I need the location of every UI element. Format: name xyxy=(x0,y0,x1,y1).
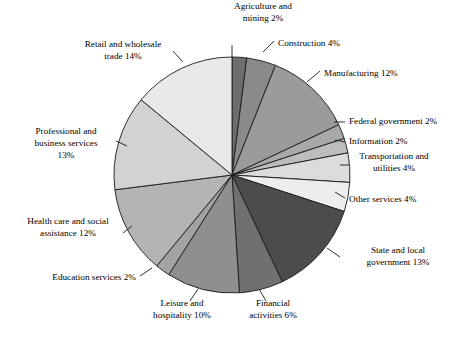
pie-slice-label: Education services 2% xyxy=(52,272,136,282)
pie-slice-label-line: Education services 2% xyxy=(52,272,136,282)
pie-slice-label-line: Retail and wholesale xyxy=(85,39,162,49)
pie-slice-label: Information 2% xyxy=(349,136,408,146)
pie-slice-label-line: Leisure and xyxy=(160,298,204,308)
pie-slice-label: Leisure andhospitality 10% xyxy=(153,298,211,320)
pie-slice-label-line: Health care and social xyxy=(27,216,109,226)
pie-slice-label-line: Professional and xyxy=(36,126,97,136)
pie-slice-label: Manufacturing 12% xyxy=(324,68,398,78)
pie-slice-label-line: utilities 4% xyxy=(373,163,415,173)
pie-slice-label: Retail and wholesaletrade 14% xyxy=(85,39,162,61)
pie-slice-label-line: Other services 4% xyxy=(349,194,417,204)
leader-line xyxy=(307,71,320,82)
pie-slice-label: Agriculture andmining 2% xyxy=(234,1,292,23)
pie-slice-label: State and localgovernment 13% xyxy=(366,245,429,267)
pie-slice-label: Financialactivities 6% xyxy=(249,298,297,320)
pie-slice-label-line: Financial xyxy=(256,298,291,308)
pie-slice-label-line: hospitality 10% xyxy=(153,310,211,320)
pie-slice-label-line: activities 6% xyxy=(249,310,297,320)
pie-slices-group xyxy=(114,57,350,293)
pie-slice-label: Federal government 2% xyxy=(349,116,438,126)
pie-slice-label-line: business services xyxy=(34,138,97,148)
pie-chart-figure: Agriculture andmining 2%Construction 4%M… xyxy=(0,0,469,339)
pie-slice-label: Transportation andutilities 4% xyxy=(359,151,429,173)
pie-slice-label-line: Construction 4% xyxy=(278,38,340,48)
pie-chart-canvas: Agriculture andmining 2%Construction 4%M… xyxy=(0,0,469,339)
leader-line xyxy=(263,41,274,52)
pie-slice-label-line: Manufacturing 12% xyxy=(324,68,398,78)
pie-slice-label-line: Transportation and xyxy=(359,151,429,161)
pie-slice-label-line: mining 2% xyxy=(243,13,284,23)
pie-slice-label: Construction 4% xyxy=(278,38,340,48)
pie-slice-label-line: Federal government 2% xyxy=(349,116,438,126)
pie-slice-label-line: government 13% xyxy=(366,257,429,267)
leader-line xyxy=(173,51,183,62)
pie-slice-label-line: Information 2% xyxy=(349,136,408,146)
pie-slice-label-line: 13% xyxy=(58,150,75,160)
leader-line xyxy=(140,268,152,276)
pie-slice-label-line: assistance 12% xyxy=(40,228,96,238)
pie-slice-label: Professional andbusiness services13% xyxy=(34,126,97,160)
pie-slice-label: Other services 4% xyxy=(349,194,417,204)
pie-slice-label-line: Agriculture and xyxy=(234,1,292,11)
pie-slice-label-line: trade 14% xyxy=(104,51,142,61)
pie-slice-label: Health care and socialassistance 12% xyxy=(27,216,109,238)
pie-slice-label-line: State and local xyxy=(371,245,426,255)
leader-line xyxy=(327,248,340,257)
